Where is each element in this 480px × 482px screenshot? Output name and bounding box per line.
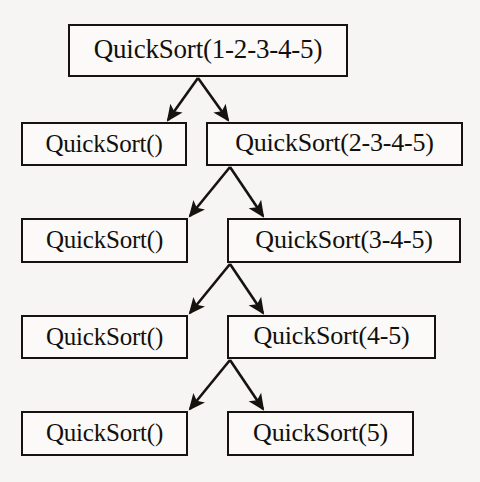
tree-node-n1-left[interactable]: QuickSort() bbox=[21, 122, 187, 166]
tree-node-label: QuickSort(1-2-3-4-5) bbox=[94, 36, 322, 63]
tree-node-root[interactable]: QuickSort(1-2-3-4-5) bbox=[68, 24, 348, 77]
tree-node-label: QuickSort(5) bbox=[253, 420, 388, 446]
tree-edge-n2-right-to-n3-left bbox=[190, 264, 230, 313]
tree-node-n3-right[interactable]: QuickSort(4-5) bbox=[227, 315, 436, 359]
tree-node-label: QuickSort() bbox=[46, 324, 163, 349]
tree-node-label: QuickSort() bbox=[45, 131, 162, 156]
tree-node-label: QuickSort() bbox=[46, 420, 163, 445]
tree-node-n4-left[interactable]: QuickSort() bbox=[21, 411, 188, 456]
tree-edge-n1-right-to-n2-left bbox=[190, 167, 230, 216]
tree-edge-n2-right-to-n3-right bbox=[230, 264, 263, 313]
tree-node-n2-left[interactable]: QuickSort() bbox=[21, 218, 188, 263]
quicksort-recursion-tree-diagram: QuickSort(1-2-3-4-5)QuickSort()QuickSort… bbox=[0, 0, 480, 482]
tree-node-n2-right[interactable]: QuickSort(3-4-5) bbox=[227, 218, 461, 263]
tree-node-n4-right[interactable]: QuickSort(5) bbox=[227, 411, 414, 456]
tree-edge-root-to-n1-left bbox=[168, 78, 198, 120]
tree-edge-n1-right-to-n2-right bbox=[230, 167, 263, 216]
tree-node-label: QuickSort(2-3-4-5) bbox=[235, 130, 434, 156]
tree-node-label: QuickSort(4-5) bbox=[253, 323, 409, 349]
tree-node-n3-left[interactable]: QuickSort() bbox=[21, 315, 188, 359]
tree-edge-n3-right-to-n4-right bbox=[230, 360, 263, 409]
tree-edge-root-to-n1-right bbox=[198, 78, 228, 120]
tree-node-label: QuickSort() bbox=[46, 227, 163, 252]
tree-edge-n3-right-to-n4-left bbox=[190, 360, 230, 409]
tree-node-label: QuickSort(3-4-5) bbox=[255, 227, 432, 253]
tree-node-n1-right[interactable]: QuickSort(2-3-4-5) bbox=[206, 122, 463, 166]
